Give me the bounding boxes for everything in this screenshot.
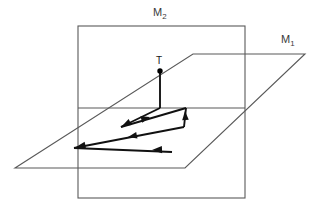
plane-m2-label-base: M bbox=[153, 6, 162, 18]
plane-m1-label-subscript: 1 bbox=[290, 39, 294, 48]
plane-m2-label-subscript: 2 bbox=[162, 12, 166, 21]
point-t-marker bbox=[157, 68, 162, 73]
ray-path-group bbox=[74, 108, 186, 152]
point-dot bbox=[157, 68, 162, 73]
ray-arrowheads bbox=[75, 111, 188, 154]
point-t-label: T bbox=[156, 55, 162, 66]
plane-m2-label: M2 bbox=[153, 6, 167, 21]
arrow-up-icon bbox=[182, 111, 189, 120]
diagram-canvas bbox=[0, 0, 323, 207]
geometry-diagram: M2 M1 T bbox=[0, 0, 323, 207]
arrow-down-left-mid-icon bbox=[127, 132, 137, 140]
ray-segment-4 bbox=[74, 127, 184, 148]
arrow-left-return-icon bbox=[152, 146, 162, 154]
plane-m1-label: M1 bbox=[281, 33, 295, 48]
plane-m1-label-base: M bbox=[281, 33, 290, 45]
